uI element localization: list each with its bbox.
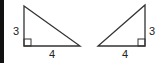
right-horizontal-label: 4 [122,48,128,60]
left-triangle: 3 4 [13,6,80,60]
triangles-diagram: 3 4 3 4 [0,0,165,63]
left-horizontal-label: 4 [49,48,55,60]
left-vertical-label: 3 [13,25,19,37]
right-vertical-label: 3 [149,25,155,37]
right-angle-marker [24,39,31,46]
right-triangle: 3 4 [98,5,155,60]
right-angle-marker [138,39,145,46]
